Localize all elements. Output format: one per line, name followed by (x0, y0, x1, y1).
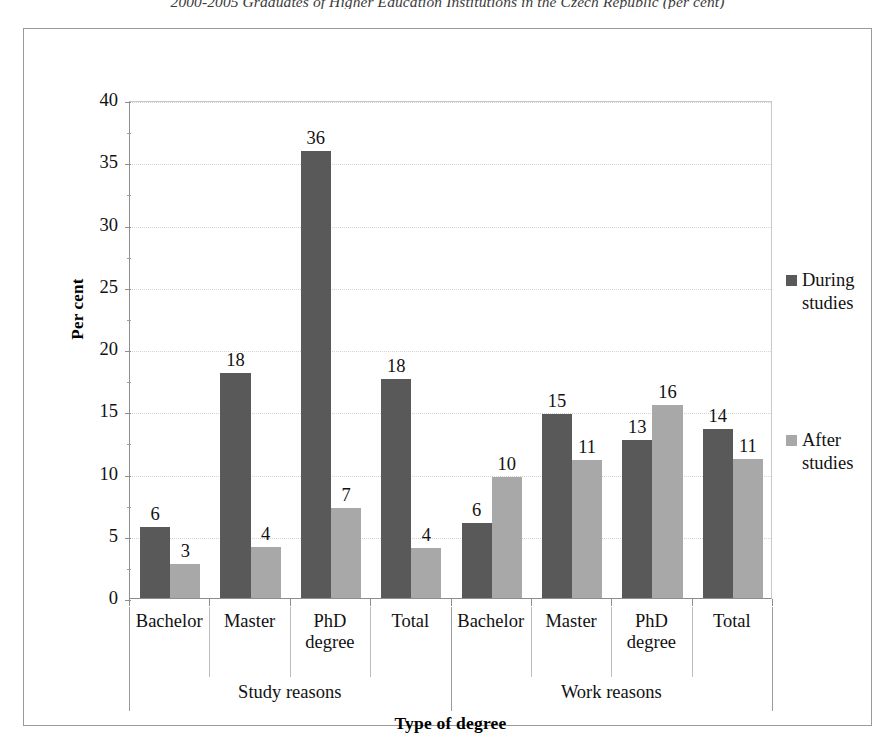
bar-value-label: 14 (695, 407, 741, 426)
x-axis-category-cell: Master (531, 607, 611, 677)
y-axis-tick (125, 289, 131, 290)
y-axis-tick-label: 25 (78, 278, 118, 296)
x-axis-category-line: degree (611, 632, 691, 653)
x-axis-category-cell: Bachelor (129, 607, 209, 677)
x-axis-category-cell: PhDdegree (290, 607, 370, 677)
group-separator (451, 607, 452, 711)
bar-after (170, 564, 200, 598)
y-axis-minor-tick (127, 569, 131, 570)
x-axis-category-cell: Bachelor (451, 607, 531, 677)
category-separator (611, 607, 612, 677)
bar-after (572, 460, 602, 598)
y-axis-tick-label: 35 (78, 153, 118, 171)
y-axis-tick-label: 30 (78, 216, 118, 234)
x-axis-group-labels: Study reasonsWork reasons (129, 677, 772, 711)
after-swatch-icon (786, 435, 797, 446)
x-axis-title: Type of degree (129, 713, 772, 734)
bar-value-label: 18 (373, 357, 419, 376)
x-axis-group-label: Study reasons (129, 677, 451, 711)
x-axis-tick (611, 599, 612, 606)
y-axis-tick (125, 538, 131, 539)
y-axis-tick-label: 5 (78, 527, 118, 545)
x-axis-category-line: PhD (290, 611, 370, 632)
x-axis-group-label: Work reasons (451, 677, 773, 711)
document-title: 2000-2005 Graduates of Higher Education … (0, 0, 895, 9)
x-axis-tick (772, 599, 773, 606)
y-axis-tick-label: 0 (78, 589, 118, 607)
x-axis-category-line: Total (370, 611, 450, 632)
y-axis-minor-tick (127, 444, 131, 445)
legend-label: After studies (802, 429, 880, 475)
x-axis-tick (209, 599, 210, 606)
y-axis-tick (125, 476, 131, 477)
bar-value-label: 7 (323, 486, 369, 505)
x-axis-ticks (129, 599, 772, 607)
bar-value-label: 10 (484, 455, 530, 474)
bar-value-label: 11 (725, 437, 771, 456)
during-swatch-icon (786, 275, 797, 286)
bar-during (462, 523, 492, 598)
y-axis-tick (125, 164, 131, 165)
bar-value-label: 36 (293, 129, 339, 148)
y-axis-minor-tick (127, 507, 131, 508)
bar-after (331, 508, 361, 598)
x-axis-category-line: Bachelor (129, 611, 209, 632)
category-separator (290, 607, 291, 677)
bar-during (381, 379, 411, 598)
category-separator (209, 607, 210, 677)
gridline (130, 227, 771, 228)
group-separator (772, 607, 773, 711)
category-separator (370, 607, 371, 677)
bar-after (652, 405, 682, 598)
x-axis-category-cell: Master (209, 607, 289, 677)
y-axis-tick (125, 413, 131, 414)
x-axis-tick (531, 599, 532, 606)
bar-value-label: 15 (534, 392, 580, 411)
bar-value-label: 16 (644, 383, 690, 402)
y-axis-tick-label: 10 (78, 465, 118, 483)
y-axis-tick (125, 227, 131, 228)
y-axis-tick-label: 15 (78, 402, 118, 420)
x-axis-tick (370, 599, 371, 606)
y-axis-tick-label: 20 (78, 340, 118, 358)
gridline (130, 102, 771, 103)
category-separator (692, 607, 693, 677)
x-axis-category-line: degree (290, 632, 370, 653)
x-axis-tick (451, 599, 452, 606)
bar-after (733, 459, 763, 598)
y-axis-tick (125, 351, 131, 352)
x-axis-category-line: Master (531, 611, 611, 632)
y-axis-tick (125, 102, 131, 103)
x-axis-category-line: Master (209, 611, 289, 632)
bar-during (220, 373, 250, 598)
bar-value-label: 4 (243, 525, 289, 544)
bar-value-label: 11 (564, 438, 610, 457)
chart-frame: Per cent 0510152025303540 63184367184610… (23, 28, 872, 726)
x-axis-category-cell: Total (370, 607, 450, 677)
y-axis-minor-tick (127, 258, 131, 259)
x-axis-category-line: Total (692, 611, 772, 632)
group-separator (129, 607, 130, 711)
bar-during (140, 527, 170, 598)
bar-value-label: 4 (403, 526, 449, 545)
x-axis-category-line: Bachelor (451, 611, 531, 632)
x-axis-tick (290, 599, 291, 606)
y-axis-minor-tick (127, 195, 131, 196)
bar-during (301, 151, 331, 598)
category-separator (531, 607, 532, 677)
bar-after (492, 477, 522, 598)
legend-label: During studies (802, 269, 880, 315)
x-axis-category-line: PhD (611, 611, 691, 632)
gridline (130, 289, 771, 290)
x-axis-tick (692, 599, 693, 606)
bar-value-label: 3 (162, 542, 208, 561)
bar-value-label: 6 (132, 505, 178, 524)
y-axis-tick-label: 40 (78, 91, 118, 109)
plot-area: 63184367184610151113161411 (129, 101, 772, 599)
gridline (130, 164, 771, 165)
y-axis-minor-tick (127, 133, 131, 134)
y-axis-minor-tick (127, 382, 131, 383)
x-axis-category-cell: PhDdegree (611, 607, 691, 677)
x-axis-category-cell: Total (692, 607, 772, 677)
bar-after (251, 547, 281, 598)
